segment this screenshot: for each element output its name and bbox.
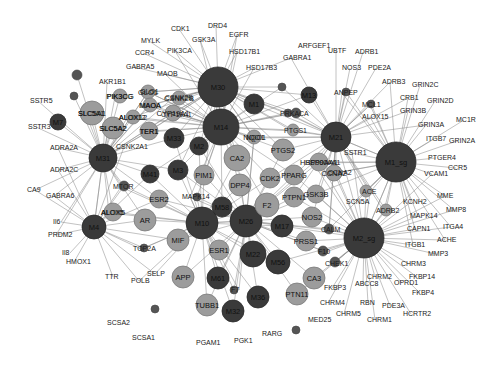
- target-label: MAOB: [157, 70, 178, 77]
- target-label: HCRTR2: [403, 310, 431, 317]
- target-label: CSNK2A1: [116, 143, 148, 150]
- target-label: FKBP3: [324, 284, 346, 291]
- target-label: ITGB7: [426, 135, 446, 142]
- target-label: MC1R: [456, 116, 476, 123]
- target-label: PTGER4: [428, 154, 456, 161]
- target-label: MAOA: [140, 102, 161, 109]
- target-label: GABRA5: [126, 63, 155, 70]
- target-label: ABCC8: [355, 280, 378, 287]
- target-label: ITGB1: [405, 241, 425, 248]
- target-label: CCNA2: [328, 169, 352, 176]
- target-label: NQO1: [246, 134, 266, 142]
- target-label: CHRM5: [336, 310, 361, 317]
- node-label: M14: [214, 123, 229, 132]
- node-label: M61: [211, 274, 226, 283]
- target-label: SLC5A2: [100, 125, 126, 132]
- target-label: SCSA2: [107, 319, 130, 326]
- node-label: ESR1: [209, 246, 229, 255]
- target-label: PIK3CA: [167, 47, 192, 54]
- target-label: PDE3A: [382, 302, 405, 309]
- node-label: AR: [140, 216, 151, 225]
- target-label: SSTR1: [344, 149, 367, 156]
- node-m8-sg[interactable]: [292, 326, 300, 334]
- target-label: MME: [437, 192, 454, 199]
- node-m50[interactable]: [151, 305, 159, 313]
- target-label: GSK3A: [192, 36, 216, 43]
- node-label: F2: [263, 201, 272, 210]
- target-label: CDK1: [171, 25, 190, 32]
- node-label: NOS2: [302, 213, 322, 222]
- node-label: M21: [329, 133, 344, 142]
- target-label: KCNH2: [403, 198, 427, 205]
- target-label: HSP90AA1: [305, 159, 341, 166]
- node-m6[interactable]: [72, 70, 82, 80]
- node-label: M2_sg: [353, 234, 376, 243]
- node-label: PTGS2: [271, 146, 296, 155]
- node-m5-sg[interactable]: [278, 83, 286, 91]
- target-label: CALM: [321, 226, 341, 233]
- target-label: MAPK14: [182, 193, 210, 200]
- node-label: M31: [96, 154, 111, 163]
- target-label: CHRM4: [320, 299, 345, 306]
- target-label: MED25: [308, 316, 331, 323]
- target-label: TOP2A: [133, 245, 156, 252]
- node-label: GSK3B: [303, 190, 328, 199]
- target-label: CHRM3: [401, 260, 426, 267]
- target-label: UBTF: [328, 47, 346, 54]
- target-label: SCN5A: [346, 198, 370, 205]
- node-label: APP: [175, 273, 190, 282]
- target-label: F10: [318, 248, 330, 255]
- target-label: GRIN2C: [412, 81, 438, 88]
- node-m9[interactable]: [70, 92, 78, 100]
- target-label: ANPEP: [334, 89, 358, 96]
- target-label: TTR: [105, 273, 119, 280]
- target-label: RBN: [360, 299, 375, 306]
- target-label: ADRB1: [355, 48, 378, 55]
- target-label: ADRA2A: [50, 144, 78, 151]
- node-label: PRSS1: [294, 237, 319, 246]
- node-label: M58: [215, 203, 230, 212]
- target-label: PGK1: [234, 337, 253, 344]
- target-label: GLO1: [140, 88, 159, 95]
- target-label: GABRA6: [46, 192, 75, 199]
- target-label: AKR1B1: [99, 78, 126, 85]
- target-label: GABRA1: [283, 54, 312, 61]
- target-label: HSD17B3: [246, 64, 277, 71]
- target-label: HMOX1: [66, 258, 91, 265]
- target-label: MMP3: [428, 250, 448, 257]
- target-label: PRDM2: [48, 231, 73, 238]
- node-label: M2: [194, 142, 204, 151]
- label-layer: M30M14M1M13M21M1_sgM2_sgM31M33M2M3M41M10…: [27, 22, 476, 346]
- edge: [58, 148, 94, 227]
- node-label: M30: [211, 83, 226, 92]
- target-label: ACHE: [437, 236, 457, 243]
- node-label: M56: [271, 258, 286, 267]
- node-label: CDK2: [260, 174, 280, 183]
- target-label: CCR4: [135, 49, 154, 56]
- target-label: MMP8: [446, 206, 466, 213]
- target-label: CA9: [27, 186, 41, 193]
- target-label: PIK3CG: [107, 93, 133, 100]
- target-label: ADRB2: [376, 207, 399, 214]
- target-label: MCL1: [362, 101, 381, 108]
- node-label: CA2: [230, 154, 245, 163]
- target-label: EGFR: [229, 31, 248, 38]
- target-label: NOS3: [342, 64, 361, 71]
- network-diagram: M30M14M1M13M21M1_sgM2_sgM31M33M2M3M41M10…: [0, 0, 493, 365]
- target-label: Il6: [53, 218, 61, 225]
- target-label: ACE: [362, 188, 377, 195]
- target-label: GRIN3A: [418, 121, 444, 128]
- target-label: CSNK2B: [165, 94, 193, 101]
- target-label: PTGS1: [284, 127, 307, 134]
- node-label: M10: [195, 219, 210, 228]
- target-label: ADRB3: [382, 78, 405, 85]
- target-label: SCSA1: [132, 334, 155, 341]
- target-label: PRKACA: [280, 110, 309, 117]
- target-label: FKBP4: [412, 289, 434, 296]
- target-label: ADRA2C: [50, 166, 78, 173]
- target-label: SSTR3: [28, 123, 51, 130]
- target-label: HSD17B1: [229, 48, 260, 55]
- target-label: CHRM1: [367, 316, 392, 323]
- target-label: CCR5: [448, 164, 467, 171]
- node-label: M32: [226, 307, 241, 316]
